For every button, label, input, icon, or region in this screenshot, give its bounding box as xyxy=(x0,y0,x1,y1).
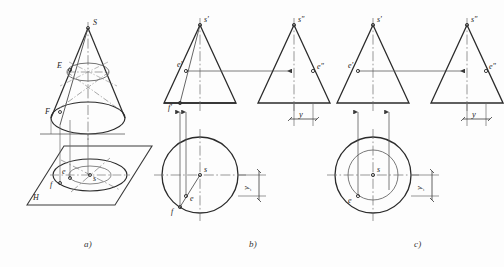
drawing-sheet: S E F e s f H s' e' xyxy=(0,0,504,267)
label-b-s-dprime: s" xyxy=(298,15,305,24)
label-c-dim-y-top: y xyxy=(414,186,424,191)
label-b-s-prime: s' xyxy=(204,15,209,24)
panel-a-pictorial: S E F e s f H xyxy=(27,18,152,205)
caption-panel-c: c) xyxy=(414,239,421,249)
label-b-e-dprime: e" xyxy=(317,62,325,71)
panel-b-side-view: s" e" y xyxy=(258,15,330,126)
label-point-F: F xyxy=(44,107,50,116)
panel-b-front-view: s' e' f' xyxy=(164,15,292,112)
cone-generatrix-sf xyxy=(60,28,88,125)
label-plane-H: H xyxy=(32,193,40,202)
label-b-dim-y-side: y xyxy=(298,109,303,119)
label-point-E: E xyxy=(56,61,62,70)
label-c-e-dprime: e" xyxy=(489,62,497,71)
label-b-f-top: f xyxy=(171,207,175,216)
panel-c-front-view: s' e' xyxy=(337,15,465,112)
label-point-e-plan: e xyxy=(62,167,66,176)
panel-c-dimension-y-top: y xyxy=(411,171,439,200)
label-point-s-plan: s xyxy=(93,174,96,183)
caption-panel-a: a) xyxy=(84,239,92,249)
panel-c-dimension-y-side: y xyxy=(463,103,490,126)
label-c-s-prime: s' xyxy=(377,15,382,24)
horizontal-plane-h xyxy=(27,146,152,205)
panel-b-three-view: s' e' f' s" e" y xyxy=(154,15,330,221)
label-c-e-top: e xyxy=(348,196,352,205)
label-apex-S: S xyxy=(93,18,97,27)
panel-c-top-view: s e y xyxy=(327,112,439,221)
label-c-e-prime: e' xyxy=(348,61,354,70)
panel-c-three-view: s' e' s" e" y xyxy=(327,15,503,221)
label-c-dim-y-side: y xyxy=(471,109,476,119)
label-b-e-prime: e' xyxy=(177,60,183,69)
label-b-e-top: e xyxy=(190,194,194,203)
panel-b-dimension-y-side: y xyxy=(290,103,317,126)
panel-b-dimension-y-top: y xyxy=(238,171,266,200)
panel-b-top-view: s e f y xyxy=(154,112,266,221)
label-b-dim-y-top: y xyxy=(241,186,251,191)
caption-panel-b: b) xyxy=(249,239,257,249)
label-c-s-dprime: s" xyxy=(471,15,478,24)
panel-c-side-view: s" e" y xyxy=(431,15,503,126)
label-b-f-prime: f' xyxy=(168,103,172,112)
label-b-s-top: s xyxy=(204,165,207,174)
label-point-f-plan: f xyxy=(50,180,54,189)
technical-drawing-canvas: S E F e s f H s' e' xyxy=(0,0,504,267)
label-c-s-top: s xyxy=(377,165,380,174)
